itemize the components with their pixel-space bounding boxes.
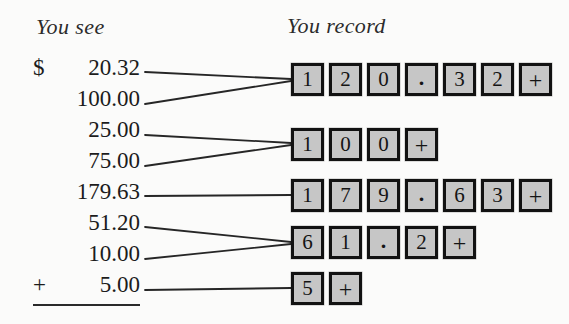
key-row: 1 2 0 . 3 2 +: [291, 63, 557, 96]
key-button-plus[interactable]: +: [443, 226, 476, 259]
key-button-decimal[interactable]: .: [367, 226, 400, 259]
key-button[interactable]: 2: [405, 226, 438, 259]
key-row: 5 +: [291, 272, 367, 305]
key-row: 6 1 . 2 +: [291, 226, 481, 259]
key-button[interactable]: 6: [291, 226, 324, 259]
key-row: 1 7 9 . 6 3 +: [291, 179, 557, 212]
key-button[interactable]: 0: [367, 128, 400, 161]
key-button[interactable]: 2: [481, 63, 514, 96]
key-button-plus[interactable]: +: [519, 179, 552, 212]
key-button[interactable]: 0: [367, 63, 400, 96]
key-button-plus[interactable]: +: [405, 128, 438, 161]
key-button[interactable]: 1: [291, 63, 324, 96]
key-button[interactable]: 1: [291, 128, 324, 161]
key-button[interactable]: 1: [291, 179, 324, 212]
key-button-decimal[interactable]: .: [405, 179, 438, 212]
calculator-entry-figure: You see You record $ 20.32 100.00 25.00 …: [0, 0, 569, 324]
key-button[interactable]: 9: [367, 179, 400, 212]
key-button-decimal[interactable]: .: [405, 63, 438, 96]
key-button[interactable]: 6: [443, 179, 476, 212]
key-button[interactable]: 2: [329, 63, 362, 96]
key-button[interactable]: 5: [291, 272, 324, 305]
key-rows: 1 2 0 . 3 2 + 1 0 0 + 1 7 9 . 6 3 + 6 1 …: [0, 0, 569, 324]
key-button[interactable]: 3: [481, 179, 514, 212]
key-button-plus[interactable]: +: [329, 272, 362, 305]
key-row: 1 0 0 +: [291, 128, 443, 161]
key-button-plus[interactable]: +: [519, 63, 552, 96]
key-button[interactable]: 1: [329, 226, 362, 259]
key-button[interactable]: 3: [443, 63, 476, 96]
key-button[interactable]: 0: [329, 128, 362, 161]
key-button[interactable]: 7: [329, 179, 362, 212]
